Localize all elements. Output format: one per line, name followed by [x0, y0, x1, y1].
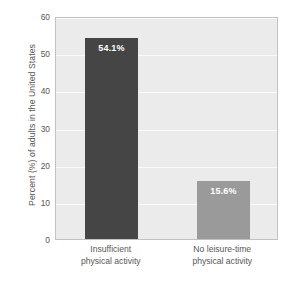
y-axis-tick-10: 10: [26, 199, 50, 207]
plot-area: 54.1%15.6%: [55, 17, 278, 240]
y-axis-tick-30: 30: [26, 124, 50, 132]
x-axis-label-1: Insufficientphysical activity: [55, 244, 167, 267]
y-axis-tick-40: 40: [26, 87, 50, 95]
x-axis-category-labels: Insufficientphysical activityNo leisure-…: [55, 244, 278, 278]
bar-value-label: 15.6%: [197, 186, 250, 196]
y-axis-tick-labels: 0102030405060: [26, 17, 50, 240]
x-axis-label-line: No leisure-time: [167, 244, 279, 256]
y-axis-tick-0: 0: [26, 236, 50, 244]
bar-chart: Percent (%) of adults in the United Stat…: [0, 0, 291, 281]
bar-value-label: 54.1%: [85, 43, 138, 53]
y-axis-tick-50: 50: [26, 50, 50, 58]
x-axis-label-2: No leisure-timephysical activity: [167, 244, 279, 267]
y-axis-tick-20: 20: [26, 161, 50, 169]
gridline: [56, 18, 277, 19]
bar-1: 54.1%: [85, 38, 138, 239]
bar-2: 15.6%: [197, 181, 250, 239]
x-axis-label-line: physical activity: [167, 256, 279, 268]
x-axis-label-line: Insufficient: [55, 244, 167, 256]
x-axis-label-line: physical activity: [55, 256, 167, 268]
y-axis-tick-60: 60: [26, 13, 50, 21]
